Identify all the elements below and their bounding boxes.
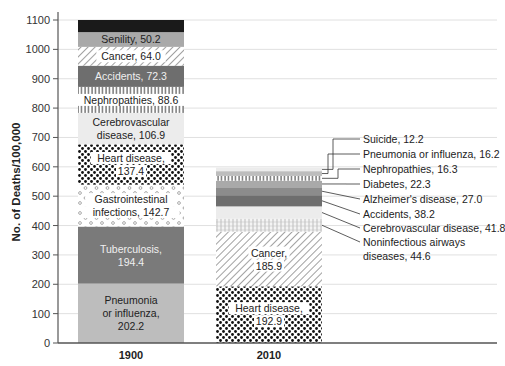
bar-segment xyxy=(216,206,322,218)
segment-label: Senility, 50.2 xyxy=(101,33,160,45)
segment-label: 137.4 xyxy=(118,165,144,177)
y-tick-label: 800 xyxy=(32,102,50,114)
segment-label: 202.2 xyxy=(118,320,144,332)
annotation: Diabetes, 22.3 xyxy=(322,178,431,190)
segment-label: Cancer, 64.0 xyxy=(101,50,161,62)
segment-label: disease, 106.9 xyxy=(97,129,165,141)
segment-label: Accidents, 72.3 xyxy=(95,70,167,82)
annotation-label: Diabetes, 22.3 xyxy=(363,178,431,190)
bar-segment xyxy=(216,187,322,195)
annotation-label: Pneumonia or influenza, 16.2 xyxy=(363,148,500,160)
y-tick-label: 100 xyxy=(32,308,50,320)
segment-label: Heart disease, xyxy=(97,152,165,164)
x-category-label: 2010 xyxy=(257,349,281,361)
bar-segment xyxy=(216,219,322,232)
segment-label: Heart disease, xyxy=(235,302,303,314)
segment-label: or influenza, xyxy=(102,307,159,319)
annotation: Alzheimer's disease, 27.0 xyxy=(322,191,482,205)
bar-segment xyxy=(216,181,322,188)
y-axis: 010020030040050060070080090010001100 xyxy=(26,12,58,349)
segment-label: 185.9 xyxy=(256,260,282,272)
bar-segment xyxy=(78,20,184,32)
y-tick-label: 200 xyxy=(32,278,50,290)
annotation-label: Suicide, 12.2 xyxy=(363,133,424,145)
annotation-label: Alzheimer's disease, 27.0 xyxy=(363,193,482,205)
y-tick-label: 700 xyxy=(32,131,50,143)
segment-label: Cerebrovascular xyxy=(92,116,170,128)
stacked-bar-chart: Pneumoniaor influenza,202.2Tuberculosis,… xyxy=(0,0,505,366)
bars: Pneumoniaor influenza,202.2Tuberculosis,… xyxy=(77,20,322,343)
bar-segment xyxy=(216,171,322,176)
segment-label: 194.4 xyxy=(118,256,144,268)
annotation-label: Cerebrovascular disease, 41.8 xyxy=(363,222,505,234)
segment-label: infections, 142.7 xyxy=(93,206,170,218)
segment-label: Nephropathies, 88.6 xyxy=(84,94,179,106)
segment-label: Gastrointestinal xyxy=(95,193,168,205)
annotation-label: Noninfectious airways xyxy=(363,236,465,248)
segment-label: 192.9 xyxy=(256,315,282,327)
bar-segment xyxy=(216,195,322,206)
segment-label: Tuberculosis, xyxy=(100,243,162,255)
y-tick-label: 500 xyxy=(32,190,50,202)
y-tick-label: 0 xyxy=(44,337,50,349)
y-tick-label: 600 xyxy=(32,161,50,173)
annotation: Nephropathies, 16.3 xyxy=(322,163,458,178)
y-tick-label: 300 xyxy=(32,249,50,261)
y-axis-title: No. of Deaths/100,000 xyxy=(10,123,22,242)
y-tick-label: 1000 xyxy=(26,43,50,55)
y-tick-label: 400 xyxy=(32,220,50,232)
y-tick-label: 900 xyxy=(32,73,50,85)
segment-label: Cancer, xyxy=(251,247,287,259)
bar-1900: Pneumoniaor influenza,202.2Tuberculosis,… xyxy=(77,20,185,343)
bar-segment xyxy=(216,168,322,172)
annotation-label: diseases, 44.6 xyxy=(363,250,431,262)
segment-label: Pneumonia xyxy=(104,294,157,306)
x-axis: 19002010 xyxy=(58,343,497,361)
bar-segment xyxy=(216,176,322,181)
x-category-label: 1900 xyxy=(119,349,143,361)
annotation-label: Accidents, 38.2 xyxy=(363,208,435,220)
annotation-label: Nephropathies, 16.3 xyxy=(363,163,458,175)
y-tick-label: 1100 xyxy=(26,14,50,26)
